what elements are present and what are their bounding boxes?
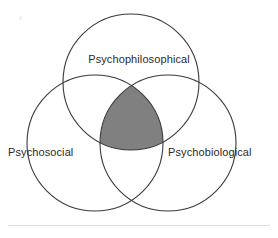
venn-diagram-figure: Psychophilosophical Psychosocial Psychob…: [0, 0, 278, 238]
triple-intersection-fill: [100, 75, 236, 211]
label-psychosocial: Psychosocial: [8, 147, 73, 158]
stray-artifact-mark: [19, 16, 22, 20]
venn-diagram-canvas: [0, 0, 278, 238]
label-psychobiological: Psychobiological: [168, 147, 252, 158]
bottom-divider-rule: [8, 225, 270, 226]
label-psychophilosophical: Psychophilosophical: [88, 54, 190, 65]
